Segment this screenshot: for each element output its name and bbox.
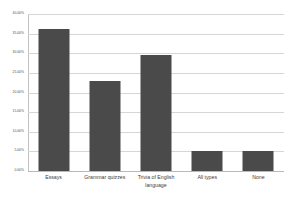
x-axis-category-label: All types (182, 174, 233, 182)
bar-chart: 0.00%5.00%10.00%15.00%20.00%25.00%30.00%… (0, 0, 290, 206)
bars-layer (28, 14, 284, 171)
y-axis-tick-label: 10.00% (0, 130, 24, 133)
bar (192, 151, 223, 171)
bar-slot (130, 14, 181, 171)
y-axis-tick-label: 30.00% (0, 51, 24, 54)
y-axis-tick-label: 5.00% (0, 149, 24, 152)
bar-slot (79, 14, 130, 171)
y-axis-tick-label: 0.00% (0, 169, 24, 172)
y-axis-tick-label: 35.00% (0, 32, 24, 35)
x-axis-category-label: Essays (28, 174, 79, 182)
y-axis-tick-label: 20.00% (0, 91, 24, 94)
x-axis-category-label: None (233, 174, 284, 182)
bar (89, 81, 120, 171)
bar-slot (233, 14, 284, 171)
y-axis-tick-label: 40.00% (0, 12, 24, 15)
bar-slot (182, 14, 233, 171)
bar-slot (28, 14, 79, 171)
x-axis-category-label: Trivia of English language (130, 174, 181, 189)
x-axis-baseline (28, 171, 284, 172)
bar (38, 29, 69, 171)
y-axis-tick-labels: 0.00%5.00%10.00%15.00%20.00%25.00%30.00%… (0, 0, 28, 206)
bar (243, 151, 274, 171)
x-axis-category-labels: EssaysGrammar quizzesTrivia of English l… (28, 174, 284, 204)
y-axis-tick-label: 25.00% (0, 71, 24, 74)
bar (140, 55, 171, 171)
x-axis-category-label: Grammar quizzes (79, 174, 130, 182)
y-axis-tick-label: 15.00% (0, 110, 24, 113)
